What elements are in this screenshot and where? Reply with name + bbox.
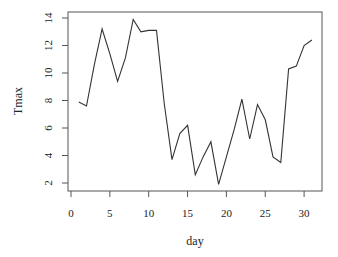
y-axis-label: Tmax (11, 87, 25, 115)
y-tick-label: 4 (42, 152, 54, 158)
y-tick-label: 12 (42, 40, 54, 51)
x-tick-label: 0 (68, 207, 74, 219)
line-chart: 051015202530 2468101214 day Tmax (0, 0, 338, 257)
y-axis: 2468101214 (42, 12, 68, 186)
y-tick-label: 6 (42, 125, 54, 131)
x-axis-label: day (186, 234, 203, 248)
x-tick-label: 25 (260, 207, 272, 219)
y-tick-label: 14 (42, 12, 54, 24)
x-tick-label: 30 (299, 207, 311, 219)
y-tick-label: 8 (42, 97, 54, 103)
x-axis: 051015202530 (68, 191, 310, 219)
x-tick-label: 15 (182, 207, 194, 219)
tmax-line (79, 19, 312, 184)
x-tick-label: 20 (221, 207, 233, 219)
plot-box (68, 12, 322, 191)
x-tick-label: 10 (143, 207, 155, 219)
x-tick-label: 5 (107, 207, 113, 219)
y-tick-label: 10 (42, 67, 54, 79)
y-tick-label: 2 (42, 180, 54, 186)
